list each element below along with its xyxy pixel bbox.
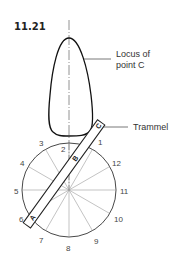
division-label-5: 5	[14, 187, 19, 196]
division-label-4: 4	[20, 159, 25, 168]
division-label-12: 12	[112, 159, 121, 168]
trammel-ellipse-diagram: 11.21 Locus of point C 1 2 3 4 5 6 7 8 9…	[0, 0, 193, 268]
division-label-10: 10	[114, 215, 123, 224]
locus-curve	[49, 38, 93, 136]
circle-spokes	[22, 143, 116, 237]
division-label-11: 11	[120, 187, 129, 196]
locus-label-line1: Locus of	[116, 49, 151, 59]
division-label-9: 9	[94, 237, 99, 246]
division-label-3: 3	[39, 139, 44, 148]
figure-number: 11.21	[14, 21, 46, 32]
division-label-2: 2	[61, 145, 66, 154]
trammel-label: Trammel	[133, 122, 168, 132]
division-label-1: 1	[98, 138, 103, 147]
locus-label-line2: point C	[116, 60, 145, 70]
division-label-7: 7	[39, 236, 44, 245]
division-label-8: 8	[66, 244, 71, 253]
